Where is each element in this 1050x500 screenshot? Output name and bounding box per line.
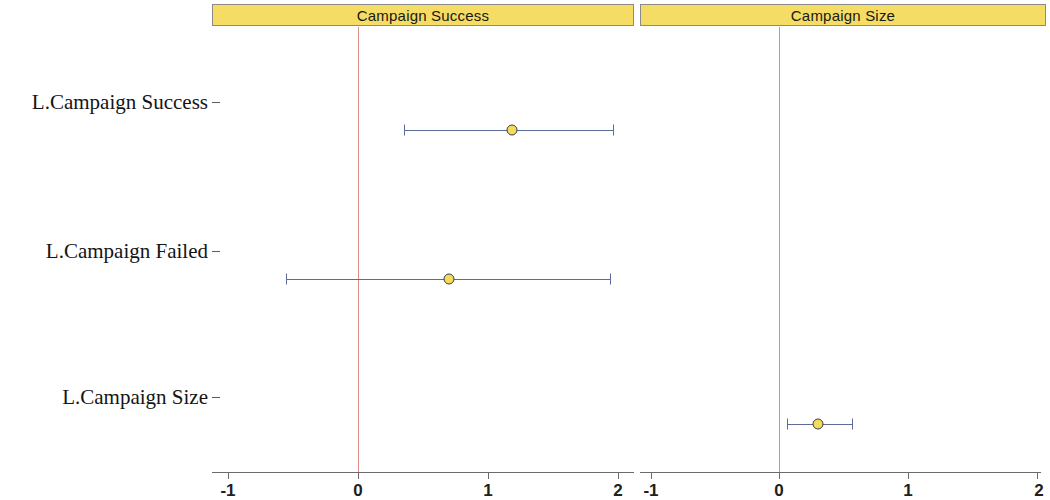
x-axis-tick-label: 2: [1034, 481, 1043, 500]
x-axis-line: [212, 472, 634, 473]
panel-header-label: Campaign Success: [357, 7, 489, 24]
panel-plot-area: [212, 27, 634, 472]
x-axis-tick-label: -1: [643, 481, 658, 500]
x-axis-tick-label: 1: [903, 481, 912, 500]
row-label-campaign-size: L.Campaign Size: [62, 387, 208, 408]
row-label-campaign-failed: L.Campaign Failed: [46, 241, 208, 262]
estimate-point: [813, 419, 824, 430]
confidence-interval-cap-high: [610, 274, 611, 285]
panel-header-campaign-success: Campaign Success: [212, 4, 634, 26]
y-tick-mark: [212, 251, 220, 252]
row-label-column: L.Campaign Success L.Campaign Failed L.C…: [0, 0, 208, 500]
zero-reference-line: [358, 27, 359, 472]
x-axis-tick: [908, 472, 909, 479]
x-axis-tick-label: 2: [613, 481, 622, 500]
confidence-interval-cap-high: [852, 419, 853, 430]
x-axis-tick: [488, 472, 489, 479]
estimate-point: [507, 125, 518, 136]
panel-campaign-success: Campaign Success: [212, 0, 634, 500]
panel-header-campaign-size: Campaign Size: [640, 4, 1046, 26]
x-axis-tick: [618, 472, 619, 479]
x-axis-tick-label: 1: [483, 481, 492, 500]
panel-header-label: Campaign Size: [791, 7, 895, 24]
y-tick-mark: [212, 397, 220, 398]
x-axis-tick: [1037, 472, 1038, 479]
row-label-campaign-success: L.Campaign Success: [32, 92, 208, 113]
panel-plot-area: [640, 27, 1050, 472]
zero-reference-line: [779, 27, 780, 472]
x-axis-tick: [358, 472, 359, 479]
panel-campaign-size: Campaign Size -1 0 1 2: [640, 0, 1050, 500]
confidence-interval-cap-low: [286, 274, 287, 285]
y-tick-mark: [212, 102, 220, 103]
x-axis-tick-label: -1: [220, 481, 235, 500]
x-axis-tick-label: 0: [774, 481, 783, 500]
confidence-interval-cap-low: [404, 125, 405, 136]
x-axis-tick: [779, 472, 780, 479]
x-axis-tick: [651, 472, 652, 479]
confidence-interval-cap-high: [613, 125, 614, 136]
x-axis-tick: [228, 472, 229, 479]
confidence-interval-cap-low: [787, 419, 788, 430]
estimate-point: [444, 274, 455, 285]
x-axis-line: [640, 472, 1041, 473]
x-axis-tick-label: 0: [353, 481, 362, 500]
